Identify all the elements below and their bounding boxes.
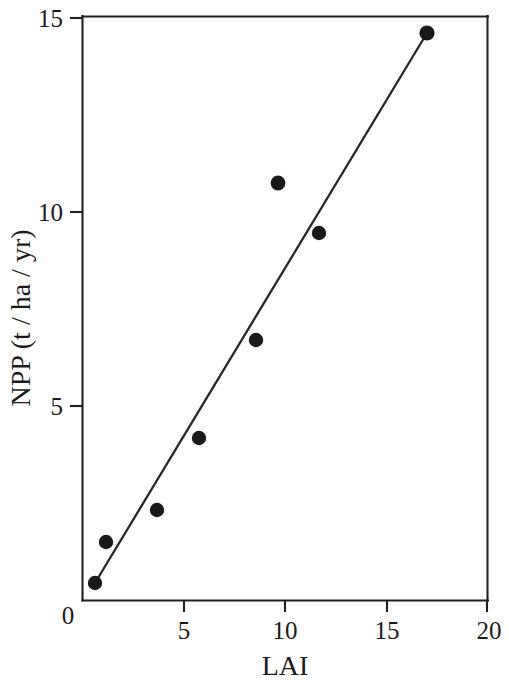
x-tick-label-10: 10 [273, 617, 298, 644]
x-axis-ticks [184, 600, 487, 612]
data-point[interactable] [192, 431, 206, 445]
y-tick-label-0: 0 [62, 602, 75, 629]
x-tick-label-20: 20 [477, 617, 502, 644]
data-point[interactable] [271, 176, 286, 191]
x-axis-title: LAI [262, 650, 309, 681]
regression-line [95, 33, 427, 583]
y-axis-ticks [70, 18, 82, 406]
y-axis-tick-labels: 15 10 5 0 [38, 5, 74, 629]
fit-line-segment [95, 33, 427, 583]
chart-figure: 15 10 5 0 5 10 15 20 LAI NPP (t / ha / y… [0, 0, 509, 683]
scatter-plot: 15 10 5 0 5 10 15 20 LAI NPP (t / ha / y… [0, 0, 509, 683]
data-point[interactable] [312, 226, 326, 240]
data-point[interactable] [88, 576, 102, 590]
x-tick-label-5: 5 [178, 617, 191, 644]
y-tick-label-10: 10 [38, 199, 63, 226]
x-tick-label-15: 15 [375, 617, 400, 644]
data-point[interactable] [99, 535, 113, 549]
data-point[interactable] [150, 503, 164, 517]
data-point[interactable] [419, 25, 434, 40]
x-axis-tick-labels: 5 10 15 20 [178, 617, 502, 644]
plot-axes-frame [83, 16, 489, 601]
y-axis-title: NPP (t / ha / yr) [5, 229, 36, 406]
y-tick-label-15: 15 [38, 5, 63, 32]
y-tick-label-5: 5 [51, 393, 64, 420]
data-point[interactable] [249, 333, 263, 347]
